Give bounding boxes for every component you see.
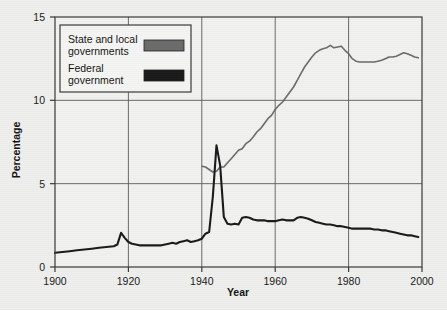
ytick-label-5: 5: [39, 178, 45, 190]
xtick-label-1960: 1960: [264, 275, 288, 287]
chart-legend: State and local governments Federal gove…: [60, 25, 191, 92]
line-chart: 190019201940196019802000051015 Year Perc…: [0, 0, 447, 310]
xtick-label-2000: 2000: [410, 275, 434, 287]
ytick-label-0: 0: [39, 261, 45, 273]
chart-figure: 190019201940196019802000051015 Year Perc…: [0, 0, 447, 310]
xtick-label-1900: 1900: [43, 275, 67, 287]
xtick-label-1940: 1940: [190, 275, 214, 287]
legend-item-federal-label-line2: government: [68, 74, 124, 86]
xtick-label-1980: 1980: [337, 275, 361, 287]
legend-item-state-and-local-label-line1: State and local: [68, 33, 137, 45]
legend-swatch-federal: [144, 70, 184, 81]
ytick-label-10: 10: [33, 94, 45, 106]
y-axis-title: Percentage: [10, 122, 22, 179]
legend-swatch-state-and-local: [144, 40, 184, 51]
xtick-label-1920: 1920: [117, 275, 141, 287]
legend-item-federal-label-line1: Federal: [68, 62, 104, 74]
legend-item-state-and-local-label-line2: governments: [68, 45, 129, 57]
x-axis-title: Year: [227, 286, 249, 298]
ytick-label-15: 15: [33, 11, 45, 23]
